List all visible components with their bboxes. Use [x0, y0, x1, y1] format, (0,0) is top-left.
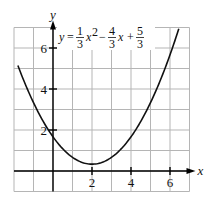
- fraction-numerator: 1: [77, 24, 83, 38]
- equation-lhs: y: [58, 30, 65, 44]
- equation-variable: x: [117, 30, 124, 44]
- x-axis-label: x: [197, 163, 204, 178]
- equation-label: y=13x2−43x+53: [57, 24, 155, 51]
- equation-sign: −: [99, 30, 106, 44]
- y-tick-label: 6: [41, 41, 48, 56]
- fraction-denominator: 3: [109, 37, 115, 51]
- equation-sign: +: [127, 30, 134, 44]
- x-tick-label: 6: [167, 175, 174, 190]
- y-tick-label: 4: [41, 82, 48, 97]
- parabola-graph: x y 246246 y=13x2−43x+53: [0, 0, 206, 203]
- x-tick-label: 2: [89, 175, 96, 190]
- fraction-numerator: 5: [137, 24, 143, 38]
- equation-equals: =: [67, 30, 74, 44]
- fraction-denominator: 3: [77, 37, 83, 51]
- x-tick-label: 4: [128, 175, 135, 190]
- equation-variable: x: [85, 30, 92, 44]
- equation-exponent: 2: [92, 25, 98, 39]
- y-axis-label: y: [48, 7, 56, 22]
- ticks: 246246: [41, 41, 174, 191]
- fraction-denominator: 3: [137, 37, 143, 51]
- fraction-numerator: 4: [109, 24, 115, 38]
- y-axis-arrow-icon: [50, 21, 56, 30]
- x-axis-arrow-icon: [187, 168, 196, 174]
